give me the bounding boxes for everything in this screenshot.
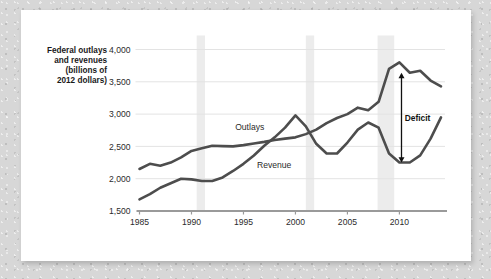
y-axis-tick-label: 1,500 (109, 206, 131, 216)
x-axis-tick-label-group: 198519901995200020052010 (130, 217, 409, 227)
x-axis-tick-label: 1985 (130, 217, 149, 227)
y-axis-title-line: Federal outlays (47, 46, 108, 55)
y-axis-title-line: 2012 dollars) (57, 76, 107, 85)
chart-figure: 1,5002,0002,5003,0003,5004,000 198519901… (0, 0, 491, 279)
series-label-revenue: Revenue (257, 160, 292, 170)
x-axis-tick-label: 2005 (338, 217, 357, 227)
y-axis-title-line: and revenues (54, 56, 107, 65)
x-axis-tick-label: 2000 (286, 217, 305, 227)
series-line-outlays (140, 62, 442, 169)
gridline-group (136, 50, 446, 179)
x-axis-tick-label: 2010 (390, 217, 409, 227)
y-axis-title-line: (billions of (66, 66, 108, 75)
y-axis-tick-label: 2,000 (109, 174, 131, 184)
chart-canvas: 1,5002,0002,5003,0003,5004,000 198519901… (0, 0, 491, 279)
x-axis-tick-label: 1990 (182, 217, 201, 227)
y-axis-tick-label: 3,000 (109, 109, 131, 119)
y-axis-tick-label-group: 1,5002,0002,5003,0003,5004,000 (109, 45, 131, 217)
deficit-label: Deficit (405, 113, 431, 123)
deficit-arrow-head-top (398, 73, 404, 78)
y-axis-tick-label: 2,500 (109, 142, 131, 152)
y-axis-tick-label: 3,500 (109, 77, 131, 87)
series-line-revenue (140, 115, 442, 199)
recession-band (197, 36, 205, 212)
series-label-outlays: Outlays (235, 122, 264, 132)
y-axis-title: Federal outlaysand revenues(billions of2… (47, 46, 108, 86)
recession-band (306, 36, 314, 212)
x-axis-tick-label: 1995 (234, 217, 253, 227)
deficit-annotation: Deficit (398, 73, 430, 163)
recession-band-group (197, 36, 395, 212)
y-axis-tick-label: 4,000 (109, 45, 131, 55)
recession-band (378, 36, 395, 212)
